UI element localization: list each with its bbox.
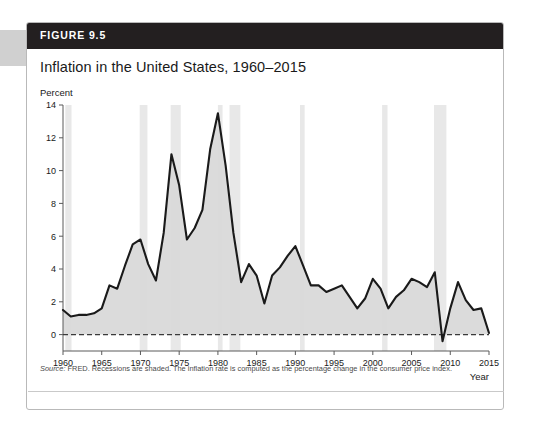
source-label: Source: <box>40 364 65 373</box>
figure-card: FIGURE 9.5 Inflation in the United State… <box>26 22 504 410</box>
y-axis-tick-label: 0 <box>51 330 56 340</box>
chart-area-fill <box>63 113 489 341</box>
y-axis-tick-label: 14 <box>46 100 56 110</box>
y-axis-tick-label: 10 <box>46 166 56 176</box>
y-axis-tick-label: 12 <box>46 133 56 143</box>
figure-source-note: Source: FRED. Recessions are shaded. The… <box>40 363 488 374</box>
y-axis-tick-label: 6 <box>51 232 56 242</box>
source-text: FRED. Recessions are shaded. The inflati… <box>65 364 451 373</box>
chart-plot-area: 0246810121419601965197019751980198519901… <box>27 23 505 411</box>
figure-page: FIGURE 9.5 Inflation in the United State… <box>0 0 535 440</box>
y-axis-tick-label: 2 <box>51 297 56 307</box>
note-divider <box>28 391 504 392</box>
y-axis-tick-label: 8 <box>51 199 56 209</box>
inflation-line-chart: 0246810121419601965197019751980198519901… <box>27 23 505 411</box>
y-axis-tick-label: 4 <box>51 264 56 274</box>
